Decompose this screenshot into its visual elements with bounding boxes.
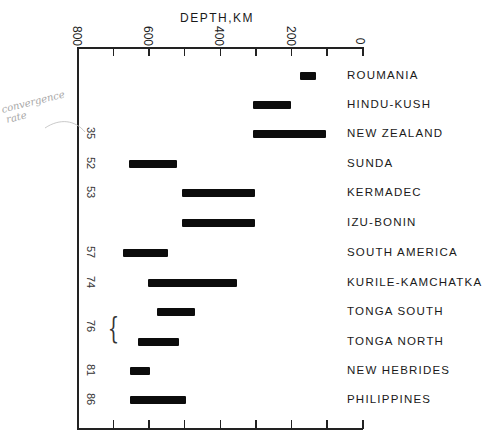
region-label: KERMADEC	[347, 186, 422, 198]
note-leader-line	[0, 0, 120, 160]
rate-label-tonga: 76	[85, 320, 97, 332]
axis-tick-top	[291, 47, 293, 56]
rate-label: 53	[85, 186, 97, 198]
depth-range-bar	[138, 338, 179, 346]
axis-tick-top	[184, 47, 186, 56]
axis-tick-top	[148, 47, 150, 56]
axis-tick-bottom	[255, 420, 257, 429]
region-label: TONGA SOUTH	[347, 305, 444, 317]
depth-range-bar	[129, 160, 177, 168]
region-label: IZU-BONIN	[347, 216, 417, 228]
region-label: TONGA NORTH	[347, 335, 444, 347]
depth-range-bar	[182, 219, 255, 227]
rate-label: 57	[85, 246, 97, 258]
axis-tick-top	[362, 47, 364, 56]
depth-range-bar	[130, 367, 150, 375]
brace-icon: {	[108, 313, 119, 343]
region-label: SOUTH AMERICA	[347, 246, 458, 258]
region-label: ROUMANIA	[347, 69, 419, 81]
axis-tick-bottom	[113, 420, 115, 429]
axis-tick-bottom	[291, 420, 293, 429]
tick-label-200: 200	[284, 26, 298, 46]
depth-range-bar	[182, 189, 255, 197]
tick-label-0: 0	[353, 38, 367, 45]
rate-label: 86	[85, 393, 97, 405]
axis-tick-bottom	[77, 420, 79, 429]
region-label: NEW ZEALAND	[347, 127, 443, 139]
region-label: NEW HEBRIDES	[347, 364, 450, 376]
axis-tick-bottom	[148, 420, 150, 429]
depth-range-bar	[253, 130, 326, 138]
depth-range-bar	[157, 308, 194, 316]
region-label: HINDU-KUSH	[347, 98, 431, 110]
tick-label-600: 600	[141, 26, 155, 46]
depth-range-bar	[130, 396, 185, 404]
axis-tick-bottom	[362, 420, 364, 429]
axis-tick-top	[326, 47, 328, 56]
axis-tick-top	[220, 47, 222, 56]
axis-tick-bottom	[220, 420, 222, 429]
region-label: PHILIPPINES	[347, 393, 431, 405]
axis-title: DEPTH,KM	[180, 11, 254, 25]
rate-label: 74	[85, 276, 97, 288]
region-label: KURILE-KAMCHATKA	[347, 276, 482, 288]
region-label: SUNDA	[347, 157, 393, 169]
depth-range-bar	[300, 72, 316, 80]
tick-label-400: 400	[212, 26, 226, 46]
depth-range-bar	[123, 249, 168, 257]
axis-tick-bottom	[184, 420, 186, 429]
depth-range-bar	[148, 279, 237, 287]
axis-tick-top	[255, 47, 257, 56]
depth-range-bar	[253, 101, 290, 109]
rate-label: 81	[85, 364, 97, 376]
axis-tick-bottom	[326, 420, 328, 429]
